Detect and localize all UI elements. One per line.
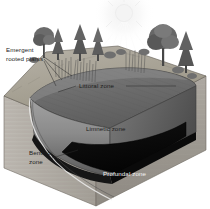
label-littoral-zone: Littoral zone: [79, 82, 114, 89]
label-emergent-rooted-plants-line1: Emergent: [6, 46, 34, 53]
label-benthic-zone-line1: Benthic: [29, 149, 50, 156]
diagram-canvas: Emergent rooted plants Littoral zone Lim…: [0, 0, 210, 209]
label-benthic-zone-line2: zone: [29, 158, 43, 165]
label-emergent-rooted-plants-line2: rooted plants: [6, 55, 43, 62]
sun-icon: [116, 5, 133, 22]
label-profundal-zone: Profundal zone: [103, 170, 146, 177]
lake-zonation-diagram: Emergent rooted plants Littoral zone Lim…: [0, 0, 210, 209]
label-limnetic-zone: Limnetic zone: [86, 125, 126, 132]
